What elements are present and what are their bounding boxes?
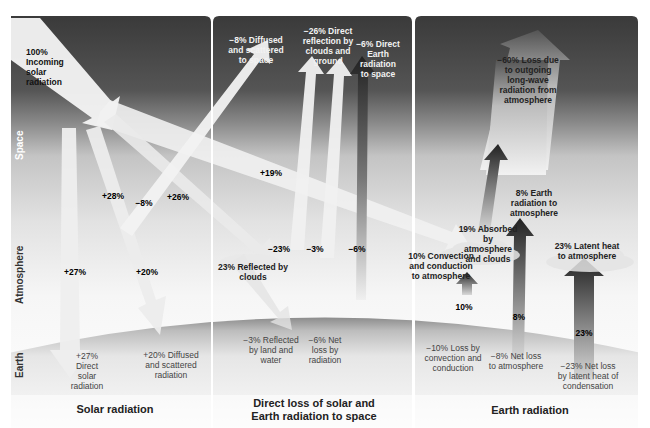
minus6-label: −6% [346,244,368,254]
earth8-label: 8% Earth radiation to atmosphere [508,188,560,218]
minus23-label: −23% [264,244,294,254]
earth-net-loss-radiation-label: −6% Net loss by radiation [305,335,345,365]
earth-diffused-label: +20% Diffused and scattered radiation [136,350,206,380]
plus27-label: +27% [60,267,90,277]
reflected-clouds-label: 23% Reflected by clouds [214,262,292,282]
earth-direct-solar-label: +27% Direct solar radiation [68,351,106,391]
energy-balance-diagram: Space Atmosphere Earth 100% Incoming sol… [0,0,650,428]
p23-label: 23% [572,328,596,338]
incoming-solar-label: 100% Incoming solar radiation [26,47,78,87]
section-title-earth: Earth radiation [480,404,580,417]
earth-reflected-land-label: −3% Reflected by land and water [240,335,302,365]
plus20-label: +20% [132,267,162,277]
loss60-label: −60% Loss due to outgoing long-wave radi… [496,55,560,105]
latent23-label: 23% Latent heat to atmosphere [554,241,620,261]
minus8-label: −8% [132,198,156,208]
zone-space-label: Space [14,131,25,160]
zone-earth-label: Earth [14,352,25,378]
section-title-solar: Solar radiation [60,403,170,416]
diffused-space-label: −8% Diffused and scattered to space [226,35,286,65]
section-title-direct-loss: Direct loss of solar and Earth radiation… [246,397,382,423]
plus26-label: +26% [163,192,193,202]
direct-earth-radiation-label: −6% Direct Earth radiation to space [356,39,400,79]
p10-label: 10% [452,302,476,312]
plus28-label: +28% [98,191,128,201]
p8-label: 8% [508,312,530,322]
earth-latent-loss-label: −23% Net loss by latent heat of condensa… [556,361,620,391]
plus19-label: +19% [256,168,286,178]
earth-net8-label: −8% Net loss to atmosphere [488,351,544,371]
convection10-label: 10% Convection and conduction to atmosph… [408,251,474,281]
zone-atmosphere-label: Atmosphere [14,246,25,304]
direct-reflection-label: −26% Direct reflection by clouds and gro… [302,26,354,66]
minus3-label: −3% [304,244,326,254]
earth-conv-loss-label: −10% Loss by convection and conduction [424,343,482,373]
